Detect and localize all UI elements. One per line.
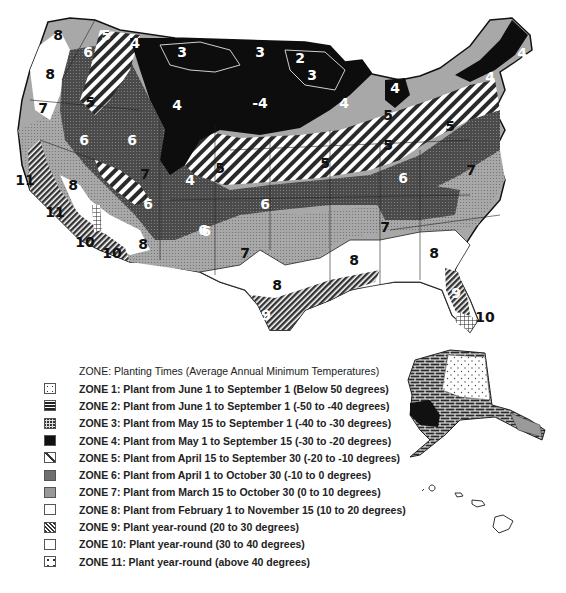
zone-3-swatch-icon [44, 418, 56, 429]
legend-item-label: ZONE 5: Plant from April 15 to September… [79, 452, 400, 464]
zone-number-label: 10 [475, 309, 495, 325]
zone-number-label: 7 [240, 245, 250, 261]
zone-number-label: 7 [466, 162, 476, 178]
zone-number-label: 8 [68, 177, 78, 193]
zone-number-label: 8 [429, 245, 439, 261]
legend-title: ZONE: Planting Times (Average Annual Min… [79, 363, 404, 380]
zone-number-label: 5 [85, 94, 95, 110]
zone-2-swatch-icon [44, 400, 56, 411]
legend-item-label: ZONE 2: Plant from June 1 to September 1… [79, 400, 389, 412]
hawaii-island-kauai [429, 485, 435, 491]
zone-number-label: 3 [255, 44, 265, 60]
us-hardiness-zone-map: 8546332384-44576644455555746666767711811… [0, 0, 566, 360]
zone-number-label: 11 [15, 172, 34, 188]
zone-number-label: 4 [172, 97, 182, 113]
zone-number-label: 4 [390, 80, 400, 96]
zone-number-label: 5 [445, 118, 455, 134]
zone-1-swatch-icon [44, 383, 56, 394]
legend-item-label: ZONE 3: Plant from May 15 to September 1… [79, 417, 391, 429]
zone-number-label: 7 [140, 166, 150, 182]
zone-number-label: 10 [102, 245, 122, 261]
zone-6-swatch-icon [44, 470, 56, 481]
legend-item-label: ZONE 11: Plant year-round (above 40 degr… [79, 556, 310, 568]
legend-item-label: ZONE 8: Plant from February 1 to Novembe… [79, 504, 406, 516]
zone-number-label: 3 [307, 67, 317, 83]
zone-number-label: -4 [252, 95, 268, 111]
zone-number-label: 5 [320, 155, 330, 171]
legend-item-zone-10: ZONE 10: Plant year-round (30 to 40 degr… [44, 536, 404, 553]
legend-item-zone-11: ZONE 11: Plant year-round (above 40 degr… [44, 553, 404, 570]
zone-number-label: 5 [215, 160, 225, 176]
zone-5-swatch-icon [44, 452, 56, 463]
legend-item-label: ZONE 10: Plant year-round (30 to 40 degr… [79, 538, 305, 550]
zone-number-label: 5 [101, 27, 111, 43]
zone-number-label: 8 [272, 277, 282, 293]
zone-number-label: 6 [79, 132, 89, 148]
zone-number-label: 4 [130, 35, 140, 51]
zone-number-label: 11 [45, 204, 64, 220]
legend-item-zone-1: ZONE 1: Plant from June 1 to September 1… [44, 380, 404, 397]
zone-number-label: 5 [383, 107, 393, 123]
legend-item-label: ZONE 6: Plant from April 1 to October 30… [79, 469, 371, 481]
zone-number-label: 8 [349, 252, 359, 268]
zone-number-label: 9 [261, 307, 271, 323]
zone-number-label: 4 [485, 69, 495, 85]
zone-number-label: 9 [100, 220, 110, 236]
zone-number-label: 7 [380, 219, 390, 235]
zone-4-swatch-icon [44, 435, 56, 446]
zone-legend: ZONE: Planting Times (Average Annual Min… [44, 363, 404, 570]
legend-item-zone-2: ZONE 2: Plant from June 1 to September 1… [44, 397, 404, 414]
zone-number-label: 4 [339, 95, 349, 111]
zone-number-label: 10 [75, 234, 95, 250]
zone-number-label: 8 [53, 27, 63, 43]
legend-item-label: ZONE 9: Plant year-round (20 to 30 degre… [79, 521, 299, 533]
zone-number-label: 6 [260, 196, 270, 212]
zone-number-label: 8 [45, 66, 55, 82]
legend-item-zone-5: ZONE 5: Plant from April 15 to September… [44, 449, 404, 466]
zone-8-swatch-icon [44, 504, 56, 515]
zone-number-label: 5 [383, 137, 393, 153]
zone-number-label: 2 [295, 50, 305, 66]
hawaii-island-big-island [493, 515, 513, 533]
zone-number-label: 3 [177, 44, 187, 60]
zone-number-label: 6 [127, 132, 137, 148]
zone-11-swatch-icon [44, 556, 56, 567]
hawaii-inset-map [410, 475, 530, 535]
legend-item-label: ZONE 7: Plant from March 15 to October 3… [79, 486, 381, 498]
zone-number-label: 6 [83, 44, 93, 60]
legend-item-label: ZONE 4: Plant from May 1 to September 15… [79, 435, 391, 447]
hawaii-island-niihau [422, 489, 424, 491]
zone-number-label: 9 [451, 285, 461, 301]
hawaii-island-maui [472, 500, 485, 507]
legend-item-zone-9: ZONE 9: Plant year-round (20 to 30 degre… [44, 518, 404, 535]
zone-9-swatch-icon [44, 522, 56, 533]
legend-item-label: ZONE 1: Plant from June 1 to September 1… [79, 383, 389, 395]
legend-item-zone-7: ZONE 7: Plant from March 15 to October 3… [44, 484, 404, 501]
legend-item-zone-8: ZONE 8: Plant from February 1 to Novembe… [44, 501, 404, 518]
zone-number-label: 6 [398, 170, 408, 186]
zone-number-label: 8 [138, 236, 148, 252]
hawaii-island-oahu [455, 493, 463, 497]
legend-item-zone-3: ZONE 3: Plant from May 15 to September 1… [44, 415, 404, 432]
alaska-inset-map [400, 345, 566, 465]
zone-number-label: 6 [143, 196, 153, 212]
zone-number-label: 4 [185, 172, 195, 188]
zone-7-swatch-icon [44, 487, 56, 498]
legend-item-zone-6: ZONE 6: Plant from April 1 to October 30… [44, 466, 404, 483]
zone-number-label: 4 [517, 45, 527, 61]
zone-10-swatch-icon [44, 539, 56, 550]
zone-number-label: 6 [201, 223, 211, 239]
zone-number-label: 7 [38, 100, 48, 116]
legend-item-zone-4: ZONE 4: Plant from May 1 to September 15… [44, 432, 404, 449]
